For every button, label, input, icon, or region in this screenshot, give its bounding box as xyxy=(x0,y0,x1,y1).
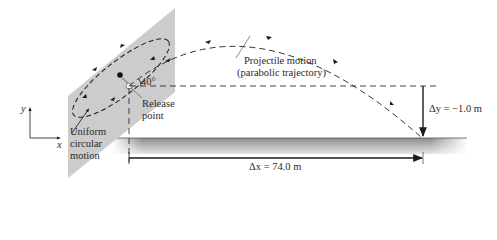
coordinate-axes xyxy=(30,109,59,138)
uniform-label-line2: circular xyxy=(70,138,102,150)
release-point-label-line2: point xyxy=(142,110,164,122)
delta-y-label: Δy = −1.0 m xyxy=(429,103,482,115)
projectile-label-line2: (parabolic trajectory) xyxy=(237,67,326,79)
delta-x-label: Δx = 74.0 m xyxy=(249,161,301,173)
ball xyxy=(117,72,123,78)
uniform-label-line3: motion xyxy=(70,150,100,162)
release-point-label-line1: Release xyxy=(142,98,175,110)
uniform-label-line1: Uniform xyxy=(70,126,106,138)
x-axis-label: x xyxy=(57,139,62,151)
ground xyxy=(112,138,468,154)
angle-label: 40° xyxy=(141,76,156,88)
projectile-label-line1: Projectile motion xyxy=(244,55,317,67)
y-axis-label: y xyxy=(21,103,26,115)
